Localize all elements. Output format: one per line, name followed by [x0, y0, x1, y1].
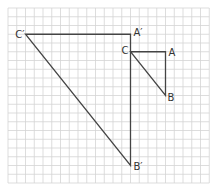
label-a: A: [169, 47, 176, 58]
label-b-prime: B′: [134, 161, 144, 172]
background: [0, 0, 217, 194]
label-a-prime: A′: [134, 27, 144, 38]
label-c-prime: C′: [15, 29, 25, 40]
label-b: B: [168, 92, 175, 103]
label-c: C: [122, 45, 129, 56]
dilation-diagram: C A B C′ A′ B′: [0, 0, 217, 194]
